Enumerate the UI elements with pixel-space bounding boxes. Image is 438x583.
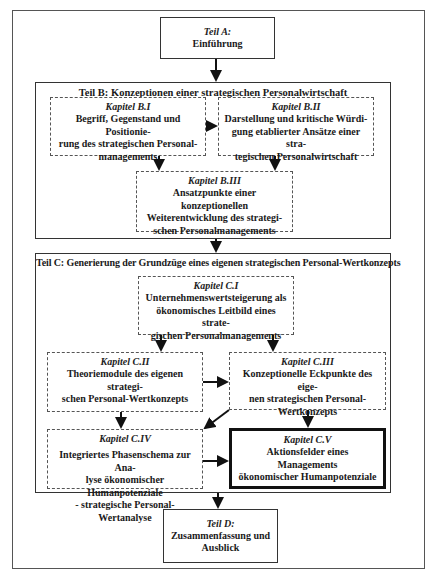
arrow-c3-to-c4 [205, 410, 229, 428]
connector-arrows [0, 0, 438, 583]
